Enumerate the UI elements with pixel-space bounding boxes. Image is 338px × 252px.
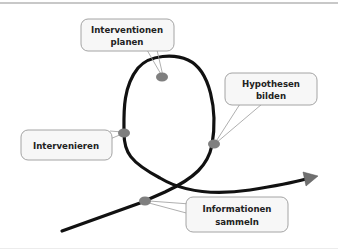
label-informationen-sammeln-line1: Informationen bbox=[203, 204, 272, 214]
label-interventionen-planen-line2: planen bbox=[111, 37, 144, 47]
node-hypothesen-bilden bbox=[208, 140, 220, 149]
label-hypothesen-bilden-line2: bilden bbox=[256, 91, 286, 101]
label-interventionen-planen-line1: Interventionen bbox=[91, 25, 163, 35]
label-hypothesen-bilden-line1: Hypothesen bbox=[242, 79, 300, 89]
cycle-diagram: Interventionen planen Hypothesen bilden … bbox=[0, 0, 338, 252]
callout-interventionen-planen: Interventionen planen bbox=[81, 19, 174, 76]
callout-intervenieren: Intervenieren bbox=[21, 130, 122, 160]
node-informationen-sammeln bbox=[139, 197, 151, 206]
callout-hypothesen-bilden: Hypothesen bilden bbox=[215, 73, 317, 143]
node-intervenieren bbox=[118, 129, 130, 138]
arrowhead-icon bbox=[303, 172, 318, 186]
node-interventionen-planen bbox=[156, 73, 168, 82]
callout-informationen-sammeln: Informationen sammeln bbox=[149, 197, 288, 232]
label-intervenieren: Intervenieren bbox=[33, 141, 99, 151]
label-informationen-sammeln-line2: sammeln bbox=[215, 217, 259, 227]
